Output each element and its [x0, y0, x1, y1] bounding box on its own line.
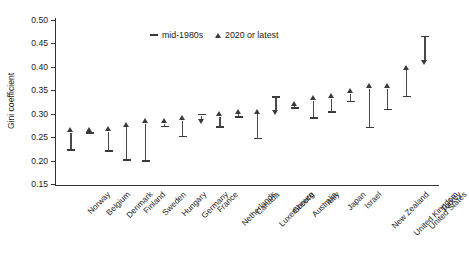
mid-1980s-marker: [291, 107, 299, 109]
y-axis-tick-label: 0.20: [0, 157, 48, 165]
latest-value-marker: [198, 119, 204, 124]
latest-value-marker: [310, 95, 316, 100]
mid-1980s-marker: [179, 136, 187, 138]
mid-1980s-marker: [366, 127, 374, 129]
change-range-line: [275, 98, 276, 111]
change-range-line: [108, 132, 109, 151]
y-axis-tick: [51, 184, 55, 185]
change-range-line: [182, 121, 183, 137]
latest-value-marker: [421, 60, 427, 65]
mid-1980s-marker: [86, 132, 94, 134]
latest-value-marker: [328, 93, 334, 98]
latest-value-marker: [67, 127, 73, 132]
mid-1980s-marker: [161, 126, 169, 128]
mid-1980s-marker: [105, 150, 113, 152]
mid-1980s-marker: [123, 159, 131, 161]
mid-1980s-marker: [272, 96, 280, 98]
plot-area: [55, 20, 438, 184]
mid-1980s-marker: [384, 109, 392, 111]
y-axis-tick-label: 0.50: [0, 16, 48, 24]
latest-value-marker: [254, 109, 260, 114]
mid-1980s-marker: [198, 114, 206, 116]
y-axis-tick-label: 0.15: [0, 180, 48, 188]
legend-entry-mid-1980s: mid-1980s: [150, 30, 203, 40]
latest-value-marker: [86, 127, 92, 132]
latest-value-marker: [216, 111, 222, 116]
legend-entry-latest: 2020 or latest: [215, 30, 278, 40]
mid-1980s-marker: [347, 101, 355, 103]
latest-value-marker: [235, 109, 241, 114]
change-range-line: [369, 89, 370, 127]
latest-value-marker: [179, 115, 185, 120]
change-range-line: [387, 89, 388, 110]
mid-1980s-marker: [310, 117, 318, 119]
mid-1980s-marker: [403, 96, 411, 98]
latest-value-marker: [142, 118, 148, 123]
change-range-line: [313, 101, 314, 118]
change-range-line: [331, 99, 332, 112]
mid-1980s-marker: [254, 138, 262, 140]
chart-legend: mid-1980s 2020 or latest: [150, 30, 278, 40]
change-range-line: [257, 114, 258, 138]
latest-value-marker: [291, 101, 297, 106]
latest-value-marker: [366, 83, 372, 88]
mid-1980s-marker: [67, 149, 75, 151]
y-axis-tick-label: 0.35: [0, 86, 48, 94]
y-axis-tick-label: 0.30: [0, 110, 48, 118]
mid-1980s-marker: [421, 36, 429, 38]
mid-1980s-marker: [216, 126, 224, 128]
latest-value-marker: [403, 65, 409, 70]
x-axis-line: [55, 185, 439, 186]
latest-value-marker: [347, 88, 353, 93]
mid-1980s-marker: [235, 116, 243, 118]
dash-marker-icon: [150, 34, 158, 36]
latest-value-marker: [161, 118, 167, 123]
triangle-marker-icon: [215, 33, 221, 38]
latest-value-marker: [272, 110, 278, 115]
change-range-line: [70, 133, 71, 151]
latest-value-marker: [105, 126, 111, 131]
change-range-line: [145, 124, 146, 161]
change-range-line: [424, 37, 425, 61]
y-axis-tick-label: 0.40: [0, 63, 48, 71]
y-axis-tick-label: 0.25: [0, 133, 48, 141]
latest-value-marker: [123, 122, 129, 127]
mid-1980s-marker: [142, 160, 150, 162]
change-range-line: [126, 127, 127, 160]
change-range-line: [406, 70, 407, 96]
latest-value-marker: [384, 83, 390, 88]
legend-label-latest: 2020 or latest: [225, 30, 278, 40]
x-axis-tick-label: Israel: [363, 190, 384, 211]
legend-label-mid-1980s: mid-1980s: [162, 30, 203, 40]
y-axis-tick-label: 0.45: [0, 39, 48, 47]
mid-1980s-marker: [328, 111, 336, 113]
